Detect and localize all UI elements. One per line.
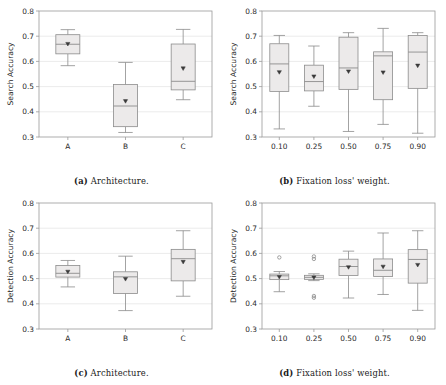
y-tick-label: 0.4 xyxy=(245,299,257,308)
boxplot-0.10 xyxy=(270,35,289,128)
x-tick-label: 0.90 xyxy=(409,334,426,343)
x-tick-label: 0.10 xyxy=(271,334,288,343)
y-axis-title: Search Accuracy xyxy=(229,42,238,106)
y-tick-label: 0.6 xyxy=(22,249,34,258)
boxplot-figure-grid: 0.30.40.50.60.70.8Search AccuracyABC (a)… xyxy=(0,0,446,385)
boxplot-0.50 xyxy=(339,33,358,132)
y-tick-label: 0.7 xyxy=(22,224,34,233)
y-tick-label: 0.5 xyxy=(22,82,34,91)
caption-b: (b) Fixation loss' weight. xyxy=(223,176,446,186)
box-iqr xyxy=(408,35,427,88)
boxplot-B xyxy=(114,256,138,310)
boxplot-C xyxy=(171,231,195,297)
box-iqr xyxy=(270,44,289,92)
boxplot-0.50 xyxy=(339,251,358,298)
caption-b-label: (b) xyxy=(279,176,293,186)
x-tick-label: C xyxy=(181,334,186,343)
caption-b-text: Fixation loss' weight. xyxy=(296,176,390,186)
y-tick-label: 0.7 xyxy=(22,32,34,41)
boxplot-0.10 xyxy=(270,256,289,292)
x-tick-label: 0.75 xyxy=(375,142,392,151)
caption-a: (a) Architecture. xyxy=(0,176,223,186)
boxplot-0.25 xyxy=(304,255,323,300)
box-iqr xyxy=(374,52,393,100)
x-tick-label: C xyxy=(181,142,186,151)
y-tick-label: 0.7 xyxy=(245,224,257,233)
box-iqr xyxy=(114,272,138,294)
y-tick-label: 0.7 xyxy=(245,32,257,41)
x-tick-label: 0.75 xyxy=(375,334,392,343)
y-tick-label: 0.5 xyxy=(245,82,257,91)
caption-c-text: Architecture. xyxy=(91,368,149,378)
panel-d: 0.30.40.50.60.70.8Detection Accuracy0.10… xyxy=(223,192,446,384)
boxplot-A xyxy=(56,260,80,286)
y-tick-label: 0.4 xyxy=(22,299,34,308)
x-tick-label: 0.50 xyxy=(340,142,357,151)
boxplot-0.75 xyxy=(374,233,393,294)
y-tick-label: 0.3 xyxy=(22,133,34,142)
x-tick-label: 0.90 xyxy=(409,142,426,151)
y-tick-label: 0.6 xyxy=(245,249,257,258)
boxplot-0.90 xyxy=(408,33,427,134)
panel-b: 0.30.40.50.60.70.8Search Accuracy0.100.2… xyxy=(223,0,446,192)
x-tick-label: 0.25 xyxy=(306,334,323,343)
plot-d: 0.30.40.50.60.70.8Detection Accuracy0.10… xyxy=(223,192,446,362)
y-tick-label: 0.5 xyxy=(22,274,34,283)
box-iqr xyxy=(171,249,195,280)
outlier-point xyxy=(278,256,281,259)
caption-d-label: (d) xyxy=(279,368,293,378)
x-tick-label: 0.10 xyxy=(271,142,288,151)
y-axis-title: Detection Accuracy xyxy=(6,229,15,303)
plot-a: 0.30.40.50.60.70.8Search AccuracyABC xyxy=(0,0,223,170)
boxplot-C xyxy=(171,29,195,99)
box-iqr xyxy=(339,37,358,89)
y-tick-label: 0.8 xyxy=(22,199,34,208)
x-tick-label: B xyxy=(123,142,128,151)
x-tick-label: 0.50 xyxy=(340,334,357,343)
y-tick-label: 0.6 xyxy=(245,57,257,66)
y-tick-label: 0.8 xyxy=(245,7,257,16)
caption-a-text: Architecture. xyxy=(91,176,149,186)
y-tick-label: 0.3 xyxy=(22,325,34,334)
y-tick-label: 0.5 xyxy=(245,274,257,283)
panel-a: 0.30.40.50.60.70.8Search AccuracyABC (a)… xyxy=(0,0,223,192)
y-axis-title: Detection Accuracy xyxy=(229,229,238,303)
x-tick-label: 0.25 xyxy=(306,142,323,151)
caption-d-text: Fixation loss' weight. xyxy=(296,368,390,378)
boxplot-B xyxy=(114,62,138,132)
y-axis-title: Search Accuracy xyxy=(6,42,15,106)
x-tick-label: A xyxy=(65,334,70,343)
plot-b: 0.30.40.50.60.70.8Search Accuracy0.100.2… xyxy=(223,0,446,170)
caption-d: (d) Fixation loss' weight. xyxy=(223,368,446,378)
boxplot-0.75 xyxy=(374,28,393,124)
y-tick-label: 0.8 xyxy=(22,7,34,16)
caption-c-label: (c) xyxy=(74,368,87,378)
y-tick-label: 0.4 xyxy=(22,107,34,116)
y-tick-label: 0.4 xyxy=(245,107,257,116)
boxplot-A xyxy=(56,30,80,66)
boxplot-0.25 xyxy=(304,46,323,106)
y-tick-label: 0.8 xyxy=(245,199,257,208)
boxplot-0.90 xyxy=(408,231,427,311)
x-tick-label: B xyxy=(123,334,128,343)
panel-c: 0.30.40.50.60.70.8Detection AccuracyABC … xyxy=(0,192,223,384)
plot-c: 0.30.40.50.60.70.8Detection AccuracyABC xyxy=(0,192,223,362)
y-tick-label: 0.3 xyxy=(245,325,257,334)
caption-c: (c) Architecture. xyxy=(0,368,223,378)
x-tick-label: A xyxy=(65,142,70,151)
y-tick-label: 0.3 xyxy=(245,133,257,142)
caption-a-label: (a) xyxy=(74,176,88,186)
y-tick-label: 0.6 xyxy=(22,57,34,66)
